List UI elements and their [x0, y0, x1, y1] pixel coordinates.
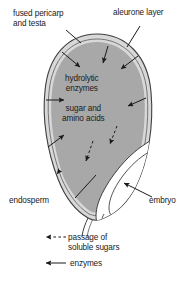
legend-label-passage-of-soluble-sugars: passage of soluble sugars	[68, 233, 119, 252]
leader-aleurone	[127, 26, 140, 47]
label-hydrolytic-enzymes: hydrolytic enzymes	[65, 74, 99, 93]
label-aleurone-layer: aleurone layer	[113, 8, 164, 18]
label-endosperm: endosperm	[9, 196, 49, 206]
legend-label-enzymes: enzymes	[70, 259, 102, 269]
seed-body	[44, 34, 152, 237]
legend-symbols	[46, 237, 66, 263]
label-fused-pericarp-and-testa: fused pericarp and testa	[13, 9, 63, 28]
label-sugar-and-amino-acids: sugar and amino acids	[62, 104, 105, 123]
label-embryo: embryo	[149, 196, 176, 206]
